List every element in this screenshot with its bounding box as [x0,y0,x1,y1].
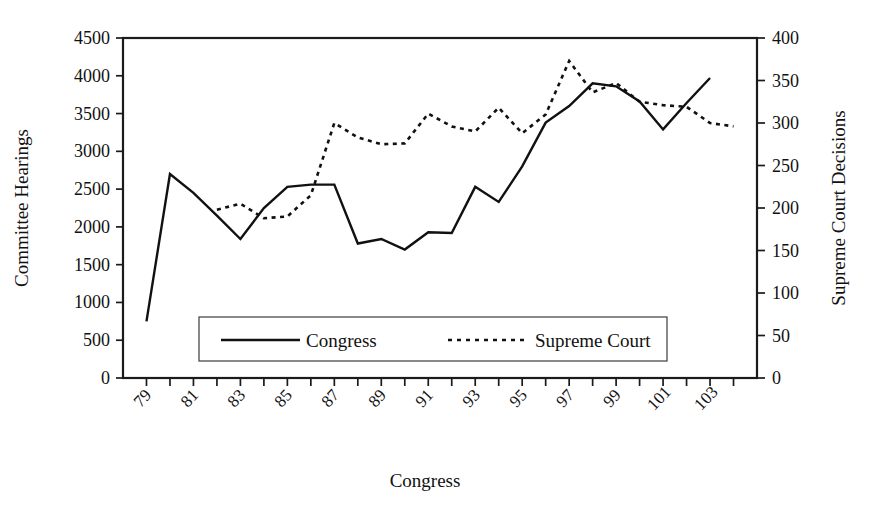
series-line-supreme-court [217,61,734,218]
x-tick-label: 85 [271,386,296,411]
left-axis-tick-labels: 050010001500200025003000350040004500 [74,28,110,388]
y-axis-title: Committee Hearings [11,129,32,287]
y-tick-label: 500 [83,330,110,350]
series-line-congress [146,78,710,321]
y2-tick-label: 350 [772,71,799,91]
x-tick-label: 101 [643,382,674,414]
x-axis-title: Congress [390,470,461,491]
y-tick-label: 4500 [74,28,110,48]
y-tick-label: 1000 [74,292,110,312]
y-tick-label: 1500 [74,255,110,275]
y-tick-label: 3000 [74,141,110,161]
y-tick-label: 0 [101,368,110,388]
y2-tick-label: 50 [772,326,790,346]
y2-tick-label: 0 [772,368,781,388]
x-tick-label: 89 [365,386,390,411]
y-tick-label: 4000 [74,66,110,86]
x-tick-label: 87 [318,385,344,411]
y-tick-label: 3500 [74,104,110,124]
x-tick-label: 91 [411,386,436,411]
y2-tick-label: 400 [772,28,799,48]
x-tick-label: 79 [130,386,155,411]
y2-tick-label: 300 [772,113,799,133]
x-tick-label: 95 [505,386,530,411]
x-axis-tick-labels: 7981838587899193959799101103 [130,382,722,414]
x-tick-label: 99 [599,386,624,411]
y2-tick-label: 200 [772,198,799,218]
y-tick-label: 2500 [74,179,110,199]
x-tick-label: 81 [177,386,202,411]
right-axis-tick-labels: 050100150200250300350400 [772,28,799,388]
chart-legend: Congress Supreme Court [199,317,667,361]
legend-label-congress: Congress [306,330,377,351]
x-tick-label: 93 [458,386,483,411]
legend-label-supreme-court: Supreme Court [535,330,651,351]
line-chart: 050010001500200025003000350040004500 050… [0,0,871,519]
series-group [146,61,733,321]
y2-tick-label: 150 [772,241,799,261]
x-tick-label: 103 [690,382,721,414]
y2-tick-label: 100 [772,283,799,303]
y2-tick-label: 250 [772,156,799,176]
y2-axis-title: Supreme Court Decisions [828,110,849,305]
x-tick-label: 97 [552,385,578,411]
chart-figure: 050010001500200025003000350040004500 050… [0,0,871,519]
y-tick-label: 2000 [74,217,110,237]
x-tick-label: 83 [224,386,249,411]
